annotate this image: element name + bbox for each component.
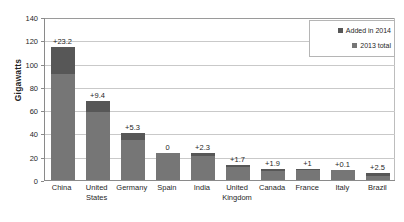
x-tick-label: France xyxy=(290,183,325,219)
bar-data-label: +5.3 xyxy=(110,123,156,132)
legend-item-added-2014: Added in 2014 xyxy=(313,23,391,38)
bar-segment-added-2014 xyxy=(86,101,110,112)
stacked-bar xyxy=(191,153,215,180)
x-axis-labels: ChinaUnited StatesGermanySpainIndiaUnite… xyxy=(44,183,395,219)
legend-item-2013-total: 2013 total xyxy=(313,38,391,53)
bar-segment-2013-total xyxy=(156,153,180,180)
x-tick-label: Canada xyxy=(255,183,290,219)
y-tick-label: 140 xyxy=(8,14,38,23)
y-axis-ticks: 020406080100120140 xyxy=(0,0,44,222)
x-tick-label: India xyxy=(184,183,219,219)
bar-column: +1.9 xyxy=(255,18,290,180)
bar-segment-2013-total xyxy=(226,167,250,180)
bar-data-label: +2.5 xyxy=(355,163,401,172)
legend-label: 2013 total xyxy=(360,42,391,49)
stacked-bar xyxy=(156,153,180,180)
stacked-bar xyxy=(331,170,355,180)
y-tick-label: 120 xyxy=(8,37,38,46)
bar-segment-2013-total xyxy=(51,74,75,180)
bar-chart: Gigawatts 020406080100120140 +23.2+9.4+5… xyxy=(0,0,404,222)
legend: Added in 2014 2013 total xyxy=(309,20,395,57)
y-tick-label: 0 xyxy=(8,177,38,186)
bar-segment-2013-total xyxy=(366,176,390,180)
bar-column: +5.3 xyxy=(115,18,150,180)
bar-data-label: +23.2 xyxy=(40,37,86,46)
x-tick-label: Germany xyxy=(114,183,149,219)
bar-segment-added-2014 xyxy=(51,47,75,74)
bar-segment-2013-total xyxy=(121,140,145,180)
stacked-bar xyxy=(121,133,145,180)
y-tick-label: 100 xyxy=(8,60,38,69)
bar-segment-2013-total xyxy=(296,170,320,180)
bar-segment-2013-total xyxy=(191,156,215,180)
x-tick-label: Italy xyxy=(325,183,360,219)
y-tick-label: 20 xyxy=(8,153,38,162)
x-tick-label: China xyxy=(44,183,79,219)
x-tick-label: Spain xyxy=(149,183,184,219)
bar-segment-2013-total xyxy=(86,112,110,180)
stacked-bar xyxy=(226,165,250,180)
bar-column: +9.4 xyxy=(80,18,115,180)
bar-data-label: +9.4 xyxy=(75,91,121,100)
stacked-bar xyxy=(296,169,320,180)
bar-segment-2013-total xyxy=(331,170,355,180)
stacked-bar xyxy=(86,101,110,180)
legend-swatch-icon xyxy=(352,43,357,48)
y-tick-label: 40 xyxy=(8,130,38,139)
x-tick-label: Brazil xyxy=(360,183,395,219)
stacked-bar xyxy=(261,169,285,180)
bar-segment-2013-total xyxy=(261,171,285,180)
y-tick-label: 80 xyxy=(8,83,38,92)
bar-column: +1.7 xyxy=(220,18,255,180)
legend-swatch-icon xyxy=(338,28,343,33)
bar-data-label: +2.3 xyxy=(180,143,226,152)
stacked-bar xyxy=(366,173,390,180)
x-tick-label: United Kingdom xyxy=(219,183,254,219)
x-tick-label: United States xyxy=(79,183,114,219)
y-tick-label: 60 xyxy=(8,107,38,116)
stacked-bar xyxy=(51,47,75,180)
bar-column: 0 xyxy=(150,18,185,180)
y-tick-mark xyxy=(41,181,44,182)
legend-label: Added in 2014 xyxy=(346,27,391,34)
